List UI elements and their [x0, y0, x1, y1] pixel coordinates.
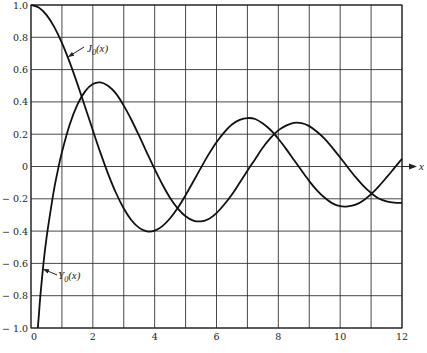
x-tick-label: 6: [213, 331, 219, 342]
y-tick-label: 0.8: [13, 32, 28, 43]
x-tick-label: 0: [31, 331, 37, 342]
x-axis-label: x: [418, 160, 424, 172]
x-axis-arrowhead-icon: [409, 164, 417, 170]
j0-arrowhead-icon: [68, 52, 74, 57]
bessel-chart: 1.00.80.60.40.20− 0.2− 0.4− 0.6− 0.8− 1.…: [0, 0, 427, 353]
x-tick-label: 10: [334, 331, 346, 342]
y-tick-label: − 0.8: [2, 290, 28, 301]
y-tick-label: 0: [22, 161, 28, 172]
x-axis-tick-labels: 024681012: [31, 331, 408, 342]
y0-label-arg: (x): [68, 269, 81, 282]
y-tick-label: − 0.6: [2, 258, 28, 269]
j0-annotation: J0(x): [68, 42, 108, 57]
y-tick-label: − 1.0: [2, 323, 28, 334]
j0-label: J0(x): [87, 42, 108, 57]
y-tick-label: − 0.2: [2, 193, 28, 204]
y0-arrowhead-icon: [43, 269, 49, 273]
y-tick-label: − 0.4: [2, 226, 28, 237]
y-tick-label: 0.6: [13, 64, 28, 75]
y-tick-label: 0.4: [13, 96, 28, 107]
j0-label-arg: (x): [96, 42, 109, 55]
y-tick-label: 1.0: [13, 0, 28, 11]
x-tick-label: 2: [90, 331, 96, 342]
y-axis-tick-labels: 1.00.80.60.40.20− 0.2− 0.4− 0.6− 0.8− 1.…: [2, 0, 28, 334]
y-tick-label: 0.2: [13, 129, 28, 140]
x-tick-label: 12: [396, 331, 408, 342]
y0-label: Y0(x): [58, 269, 81, 284]
x-tick-label: 8: [275, 331, 281, 342]
x-axis-arrow: x: [402, 160, 424, 172]
x-tick-label: 4: [152, 331, 158, 342]
